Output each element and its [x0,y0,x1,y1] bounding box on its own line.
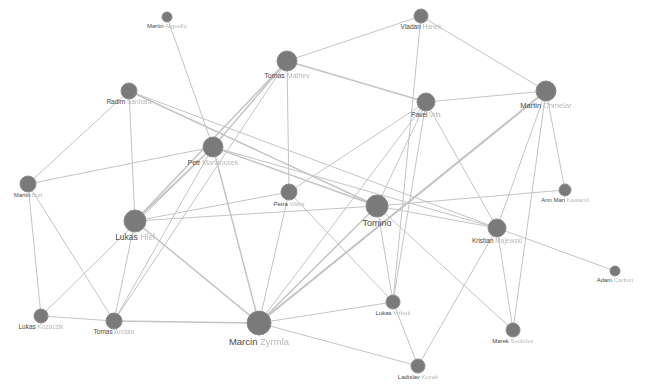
node-lukas_k[interactable]: Lukas Kozaczik [18,309,64,330]
node-label-first-name: Adam [597,277,613,283]
node-martin_c[interactable]: Martin Chmelar [520,81,572,110]
node-label: Martin Arguello [147,23,188,29]
node-label-first-name: Marek [492,338,510,344]
node-label-last-name: Majewski [494,237,523,245]
node-petr_m[interactable]: Petr Marinousek [188,137,239,166]
node-label: Kristian Majewski [472,237,522,245]
node-label-first-name: Tomas [94,328,114,335]
node-label: Marcin Zyrmla [229,336,290,347]
node-label: Ladislav Kozak [398,374,439,380]
edge-pavel-kristian [426,102,497,228]
node-circle[interactable] [414,9,428,23]
node-label: Marek Svobdov [492,338,534,344]
edge-tomino-marcin [259,206,377,323]
node-label-last-name: Arguello [164,23,188,29]
edge-tomas_m-pavel [287,61,426,102]
node-label-first-name: Petra [273,201,288,207]
edge-martin_c-marcin [259,91,546,323]
node-label-first-name: Tomas [264,72,285,79]
edge-tomino-lukas_h [135,206,377,221]
node-layer: Martin ArguelloVladan HanekTomas MathevR… [14,9,634,380]
edge-tomas_m-petra [287,61,289,192]
node-radim[interactable]: Radim Sanhara [106,83,152,105]
node-label: Lukas Hlel [115,232,155,242]
node-ann[interactable]: Ann Mari Kaaland [541,184,589,203]
node-lukas_v[interactable]: Lukas Vrtbek [376,295,412,316]
node-circle[interactable] [162,12,172,22]
node-label-first-name: Marcin [229,336,258,347]
node-martin_b[interactable]: Martin Bolt [14,176,43,198]
node-vladan[interactable]: Vladan Hanek [401,9,443,30]
node-label-last-name: Sanhara [125,98,152,105]
node-label-last-name: Vrla [428,111,442,118]
node-label: Petra Vilikis [273,201,304,207]
node-label-last-name: Vilikis [288,201,305,207]
node-label-first-name: Ladislav [398,374,420,380]
node-circle[interactable] [20,176,36,192]
edge-kristian-adam [497,228,615,271]
node-label: Pavel Vrla [411,111,441,118]
node-label-last-name: Hanek [421,23,442,30]
node-circle[interactable] [411,359,425,373]
node-circle[interactable] [277,51,297,71]
node-circle[interactable] [417,93,435,111]
node-circle[interactable] [506,323,520,337]
node-adam[interactable]: Adam Carlton [597,266,634,283]
node-tomino[interactable]: Tomino [362,195,391,228]
node-label-last-name: Mathev [285,72,310,79]
node-label-last-name: Marinousek [200,159,239,166]
node-circle[interactable] [203,137,223,157]
node-label-last-name: Kozaczik [36,323,65,330]
node-petra[interactable]: Petra Vilikis [273,184,304,207]
node-lukas_h[interactable]: Lukas Hlel [115,210,155,242]
network-graph: Martin ArguelloVladan HanekTomas MathevR… [0,0,651,384]
node-label-first-name: Martin [520,101,541,110]
edge-martin_b-tomas_a [28,184,114,321]
edge-kristian-ladislav [418,228,497,366]
node-circle[interactable] [366,195,388,217]
node-circle[interactable] [34,309,48,323]
node-label: Vladan Hanek [401,23,443,30]
node-label: Ann Mari Kaaland [541,197,589,203]
node-label-first-name: Pavel [411,111,428,118]
node-label: Adam Carlton [597,277,634,283]
edge-petr_m-kristian [213,147,497,228]
node-circle[interactable] [559,184,571,196]
node-label-first-name: Martin [14,192,31,198]
edge-marcin-lukas_v [259,302,393,323]
node-circle[interactable] [124,210,146,232]
node-label: Petr Marinousek [188,159,239,166]
edge-martin_c-marek [513,91,546,330]
node-label: Tomas Andalo [94,328,135,335]
node-label: Martin Bolt [14,192,43,198]
node-label-first-name: Vladan [401,23,422,30]
edge-lukas_k-tomas_a [41,316,114,321]
node-pavel[interactable]: Pavel Vrla [411,93,441,118]
node-circle[interactable] [247,311,271,335]
edge-petr_m-martin_b [28,147,213,184]
node-tomas_a[interactable]: Tomas Andalo [94,313,135,335]
node-martin_a[interactable]: Martin Arguello [147,12,188,29]
node-label-first-name: Petr [188,159,202,166]
node-label-first-name: Ann Mari [541,197,565,203]
node-label: Lukas Kozaczik [18,323,64,330]
node-circle[interactable] [106,313,122,329]
node-label-first-name: Lukas [376,310,392,316]
node-circle[interactable] [488,219,506,237]
edge-radim-kristian [129,91,497,228]
node-label-first-name: Tomino [362,218,391,228]
node-label: Lukas Vrtbek [376,310,412,316]
node-circle[interactable] [281,184,297,200]
node-label-last-name: Vrtbek [392,310,412,316]
node-circle[interactable] [121,83,137,99]
node-circle[interactable] [536,81,556,101]
node-marek[interactable]: Marek Svobdov [492,323,534,344]
node-label-last-name: Carlton [612,277,633,283]
edge-tomas_a-marcin [114,321,259,323]
node-label-last-name: Bolt [30,192,42,198]
edge-martin_b-lukas_k [28,184,41,316]
node-circle[interactable] [610,266,620,276]
node-circle[interactable] [386,295,400,309]
node-label: Martin Chmelar [520,101,572,110]
node-label-first-name: Kristian [472,237,494,244]
